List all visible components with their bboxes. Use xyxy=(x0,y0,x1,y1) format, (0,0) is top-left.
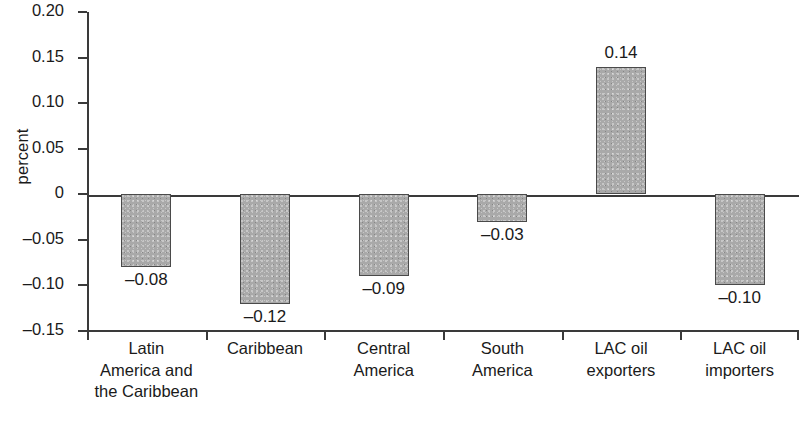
bar xyxy=(359,194,409,276)
bar-value-label: –0.03 xyxy=(447,225,557,245)
y-tick: –0.10 xyxy=(78,284,87,286)
y-tick-label: –0.10 xyxy=(0,272,64,294)
y-tick-label: –0.05 xyxy=(0,227,64,249)
bar-chart: percent 0.200.150.100.050–0.05–0.10–0.15… xyxy=(0,0,799,424)
bar-value-label: –0.09 xyxy=(329,279,439,299)
y-tick: –0.05 xyxy=(78,239,87,241)
y-tick-label: 0.15 xyxy=(0,45,64,67)
zero-baseline xyxy=(87,195,799,197)
category-label: Caribbean xyxy=(206,338,325,360)
bar xyxy=(121,194,171,267)
bar xyxy=(596,67,646,195)
bar-value-label: –0.08 xyxy=(91,270,201,290)
category-label: LAC oil exporters xyxy=(562,338,681,381)
y-tick: 0.15 xyxy=(78,57,87,59)
bar xyxy=(715,194,765,285)
y-tick: 0.10 xyxy=(78,102,87,104)
y-tick-label: 0.10 xyxy=(0,90,64,112)
y-tick-label: –0.15 xyxy=(0,318,64,340)
category-label: Latin America and the Caribbean xyxy=(87,338,206,403)
y-tick: 0.20 xyxy=(78,11,87,13)
y-axis-spine xyxy=(87,12,89,331)
y-tick: –0.15 xyxy=(78,330,87,332)
y-tick-label: 0.05 xyxy=(0,136,64,158)
bar-value-label: –0.12 xyxy=(210,307,320,327)
bar xyxy=(477,194,527,221)
category-label: South America xyxy=(443,338,562,381)
y-tick: 0.05 xyxy=(78,148,87,150)
category-label: LAC oil importers xyxy=(680,338,799,381)
plot-area: 0.200.150.100.050–0.05–0.10–0.15 –0.08–0… xyxy=(87,12,799,331)
bar xyxy=(240,194,290,303)
y-tick-label: 0 xyxy=(0,181,64,203)
y-tick-label: 0.20 xyxy=(0,0,64,21)
bar-value-label: 0.14 xyxy=(566,43,676,63)
y-tick: 0 xyxy=(78,193,87,195)
bar-value-label: –0.10 xyxy=(685,288,795,308)
category-label: Central America xyxy=(324,338,443,381)
